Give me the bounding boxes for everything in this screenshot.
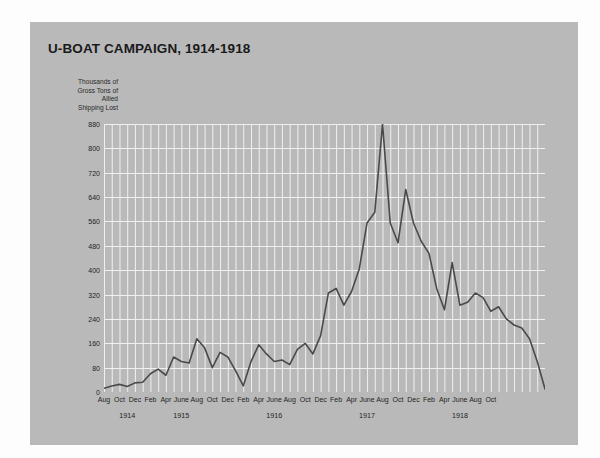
y-axis-tick-label: 640 (88, 194, 100, 201)
x-axis-year-labels: 19141915191619171918 (30, 411, 578, 425)
y-axis-tick-label: 240 (88, 315, 100, 322)
x-axis-tick-label: Aug (376, 396, 388, 403)
x-axis-tick-label: Apr (439, 396, 450, 403)
x-axis-tick-label: Feb (330, 396, 342, 403)
x-axis-tick-label: Oct (485, 396, 496, 403)
x-axis-tick-label: Feb (237, 396, 249, 403)
x-axis-tick-label: Apr (253, 396, 264, 403)
x-axis-year-label: 1918 (452, 411, 468, 420)
x-axis-tick-label: Feb (423, 396, 435, 403)
x-axis-tick-label: Aug (283, 396, 295, 403)
chart-card: U-BOAT CAMPAIGN, 1914-1918 Thousands of … (30, 22, 578, 445)
y-axis-tick-label: 480 (88, 242, 100, 249)
x-axis-tick-label: Apr (346, 396, 357, 403)
x-axis-tick-label: Apr (160, 396, 171, 403)
y-axis-tick-label: 560 (88, 218, 100, 225)
page-title: U-BOAT CAMPAIGN, 1914-1918 (48, 41, 250, 56)
x-axis-tick-label: Dec (129, 396, 141, 403)
x-axis-tick-label: Oct (114, 396, 125, 403)
x-axis-tick-label: Oct (300, 396, 311, 403)
y-axis-tick-label: 0 (96, 389, 100, 396)
x-axis-tick-label: June (267, 396, 282, 403)
y-axis-caption: Thousands of Gross Tons of Allied Shippi… (30, 78, 118, 112)
x-axis-tick-label: June (452, 396, 467, 403)
x-axis-tick-label: Oct (393, 396, 404, 403)
x-axis-year-label: 1917 (359, 411, 375, 420)
x-axis-tick-label: June (359, 396, 374, 403)
x-axis-tick-label: Aug (98, 396, 110, 403)
plot-area (104, 124, 545, 392)
x-axis-year-label: 1914 (119, 411, 135, 420)
x-axis-tick-label: Dec (314, 396, 326, 403)
x-axis-tick-label: Dec (222, 396, 234, 403)
x-axis-year-label: 1916 (266, 411, 282, 420)
x-axis-tick-label: Oct (207, 396, 218, 403)
y-axis-caption-line: Shipping Lost (30, 104, 118, 113)
y-axis-tick-label: 400 (88, 267, 100, 274)
y-axis-tick-label: 160 (88, 340, 100, 347)
x-axis-tick-label: Feb (144, 396, 156, 403)
y-axis-tick-label: 320 (88, 291, 100, 298)
y-axis-caption-line: Thousands of (30, 78, 118, 87)
y-axis-tick-label: 80 (92, 364, 100, 371)
y-axis-tick-label: 880 (88, 121, 100, 128)
plot-background (104, 124, 545, 392)
x-axis-year-label: 1915 (173, 411, 189, 420)
x-axis-tick-label: June (174, 396, 189, 403)
y-axis-caption-line: Allied (30, 95, 118, 104)
y-axis-tick-label: 720 (88, 169, 100, 176)
y-axis-tick-label: 800 (88, 145, 100, 152)
x-axis-tick-label: Aug (469, 396, 481, 403)
line-chart-svg (104, 124, 545, 392)
y-axis-caption-line: Gross Tons of (30, 87, 118, 96)
y-axis-tick-labels: 080160240320400480560640720800880 (66, 118, 100, 398)
x-axis-tick-label: Dec (407, 396, 419, 403)
x-axis-tick-label: Aug (191, 396, 203, 403)
x-axis-tick-labels: AugOctDecFebAprJuneAugOctDecFebAprJuneAu… (30, 396, 578, 410)
